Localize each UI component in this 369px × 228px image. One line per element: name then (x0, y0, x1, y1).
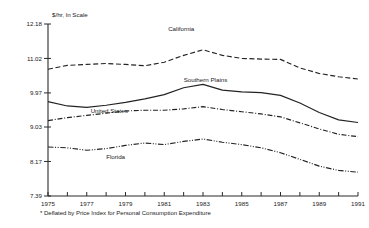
x-tick-label: 1983 (196, 200, 210, 207)
series-label-florida: Florida (106, 153, 125, 160)
x-tick-label: 1989 (312, 200, 326, 207)
y-tick-label: 8.17 (30, 158, 43, 165)
series-label-california: California (168, 25, 195, 32)
x-tick-label: 1981 (157, 200, 171, 207)
x-tick-label: 1985 (235, 200, 249, 207)
x-tick-label: 1987 (274, 200, 288, 207)
line-chart: $/hr, ln Scale 12.1811.029.979.038.177.3… (0, 0, 369, 228)
x-tick-label: 1975 (41, 200, 55, 207)
series-line-florida (48, 139, 358, 172)
x-axis-ticks: 197519771979198119831985198719891991 (41, 192, 365, 207)
series-line-southern-plains (48, 84, 358, 122)
footnote: * Deflated by Price Index for Personal C… (40, 210, 211, 216)
x-tick-label: 1991 (351, 200, 365, 207)
series-label-southern-plains: Southern Plains (184, 76, 228, 83)
y-tick-label: 9.03 (30, 123, 43, 130)
x-tick-label: 1979 (119, 200, 133, 207)
series-label-united-states: United States (91, 107, 128, 114)
x-tick-label: 1977 (80, 200, 94, 207)
series-line-california (48, 50, 358, 79)
y-tick-label: 12.18 (27, 20, 43, 27)
y-axis-ticks: 12.1811.029.979.038.177.39 (27, 20, 51, 199)
y-axis-unit-label: $/hr, ln Scale (52, 11, 88, 18)
y-tick-label: 7.39 (30, 192, 43, 199)
y-tick-label: 11.02 (27, 55, 43, 62)
chart-container: $/hr, ln Scale 12.1811.029.979.038.177.3… (0, 0, 369, 228)
y-tick-label: 9.97 (30, 89, 43, 96)
